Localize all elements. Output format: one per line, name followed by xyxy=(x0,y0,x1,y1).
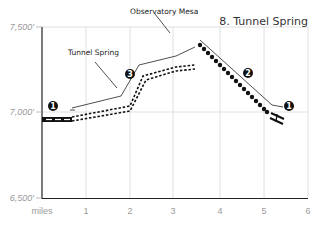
annotation-observatory-mesa: Observatory Mesa xyxy=(130,7,198,16)
x-label-1: 1 xyxy=(83,206,88,216)
svg-text:3: 3 xyxy=(127,70,133,79)
x-label-2: 2 xyxy=(127,206,132,216)
x-label-5: 5 xyxy=(261,206,266,216)
badge-2: 2 xyxy=(243,68,253,78)
y-label-7000: 7,000' xyxy=(10,107,35,117)
svg-text:1: 1 xyxy=(50,102,56,111)
chart-title: 8. Tunnel Spring xyxy=(219,15,308,28)
badge-1-end: 1 xyxy=(284,101,294,111)
x-label-3: 3 xyxy=(170,206,175,216)
annotation-tunnel-spring: Tunnel Spring xyxy=(67,48,119,57)
elevation-profile-chart: 7,500' 7,000' 6,500' miles 1 2 3 4 5 6 8… xyxy=(0,0,317,233)
badge-1-start: 1 xyxy=(48,101,58,111)
x-label-4: 4 xyxy=(217,206,222,216)
svg-text:2: 2 xyxy=(245,69,251,78)
x-label-miles: miles xyxy=(31,206,53,216)
y-label-6500: 6,500' xyxy=(10,193,35,203)
svg-text:1: 1 xyxy=(286,102,292,111)
y-ticks xyxy=(36,27,42,198)
x-label-6: 6 xyxy=(305,206,310,216)
trailhead-end-icon xyxy=(270,113,284,124)
y-label-7500: 7,500' xyxy=(10,22,35,32)
badge-3: 3 xyxy=(125,69,135,79)
trailhead-start-icon xyxy=(42,117,72,122)
route-descent-line xyxy=(198,43,269,114)
